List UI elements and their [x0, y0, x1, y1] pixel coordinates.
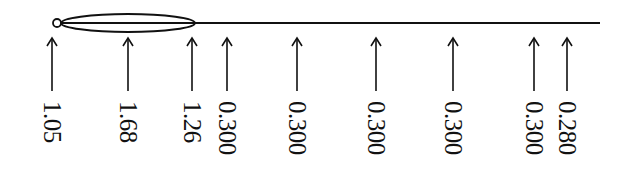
load-value-label: 0.300: [215, 101, 240, 155]
pin-circle: [53, 19, 61, 27]
load-value-label: 0.300: [441, 101, 466, 155]
load-value-label: 0.300: [522, 101, 547, 155]
up-arrow-icon: [47, 38, 57, 91]
load-value-label: 0.300: [285, 101, 310, 155]
up-arrow-icon: [448, 38, 458, 91]
up-arrow-icon: [187, 38, 197, 91]
up-arrow-icon: [371, 38, 381, 91]
load-value-label: 1.68: [116, 101, 141, 143]
up-arrow-icon: [529, 38, 539, 91]
load-value-label: 1.26: [180, 101, 205, 143]
up-arrow-icon: [222, 38, 232, 91]
up-arrow-icon: [562, 38, 572, 91]
load-value-label: 1.05: [40, 101, 65, 143]
up-arrow-icon: [123, 38, 133, 91]
load-value-label: 0.280: [555, 101, 580, 155]
up-arrow-icon: [292, 38, 302, 91]
load-value-label: 0.300: [364, 101, 389, 155]
